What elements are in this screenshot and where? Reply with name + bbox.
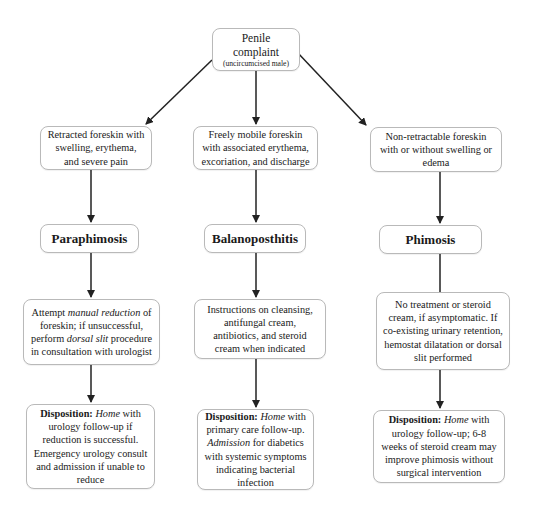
disposition-phimosis: Disposition: Home with urology follow-up… [373,410,505,483]
disposition-label: Disposition: [40,408,93,419]
diagnosis-paraphimosis: Paraphimosis [40,224,139,253]
disposition-emphasis-home: Home [95,408,120,419]
disposition-text: Disposition: Home with urology follow-up… [33,407,148,486]
presentation-paraphimosis: Retracted foreskin with swelling, erythe… [40,126,152,170]
disposition-emphasis-home: Home [260,411,285,422]
root-node-penile-complaint: Penile complaint (uncircumcised male) [212,28,300,71]
treatment-text: Attempt manual reduction of foreskin; if… [30,306,153,359]
disposition-paraphimosis: Disposition: Home with urology follow-up… [26,404,155,489]
treatment-emphasis-manual-reduction: manual reduction [68,307,141,318]
diagnosis-label: Phimosis [406,233,456,246]
diagnosis-balanoposthitis: Balanoposthitis [204,224,306,253]
disposition-label: Disposition: [205,411,258,422]
disposition-emphasis-home: Home [444,414,469,425]
disposition-text: Disposition: Home with urology follow-up… [380,413,498,479]
diagnosis-label: Balanoposthitis [212,232,298,245]
disposition-text: Disposition: Home with primary care foll… [204,410,307,489]
treatment-text-part: Attempt [31,307,67,318]
disposition-balanoposthitis: Disposition: Home with primary care foll… [197,409,314,490]
presentation-balanoposthitis: Freely mobile foreskin with associated e… [193,126,318,170]
presentation-text: Freely mobile foreskin with associated e… [200,128,311,168]
treatment-text: No treatment or steroid cream, if asympt… [383,298,503,364]
presentation-text: Retracted foreskin with swelling, erythe… [47,128,145,168]
diagnosis-phimosis: Phimosis [379,225,482,254]
root-subtitle: (uncircumcised male) [223,59,289,69]
treatment-text: Instructions on cleansing, antifungal cr… [201,303,319,356]
treatment-phimosis: No treatment or steroid cream, if asympt… [376,292,510,370]
presentation-text: Non-retractable foreskin with or without… [377,130,495,170]
presentation-phimosis: Non-retractable foreskin with or without… [370,127,502,172]
disposition-emphasis-admission: Admission [207,437,250,448]
treatment-emphasis-dorsal-slit: dorsal slit [67,333,108,344]
treatment-paraphimosis: Attempt manual reduction of foreskin; if… [23,299,160,365]
diagnosis-label: Paraphimosis [52,232,128,245]
disposition-label: Disposition: [389,414,442,425]
treatment-balanoposthitis: Instructions on cleansing, antifungal cr… [194,299,326,359]
root-title: Penile complaint [219,31,293,59]
disposition-text-part: with urology follow-up if reduction is s… [34,408,148,485]
